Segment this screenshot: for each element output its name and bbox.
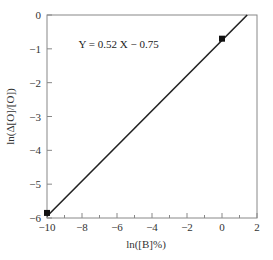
x-tick-label: −10	[38, 221, 56, 233]
y-tick-label: −5	[29, 178, 41, 190]
data-point-marker	[44, 210, 50, 216]
chart: −10−8−6−4−2020−1−2−3−4−5−6ln([B]%)ln(Δ[O…	[0, 0, 273, 260]
y-tick-label: −1	[29, 43, 41, 55]
x-axis-label: ln([B]%)	[126, 238, 166, 251]
x-tick-label: −2	[181, 221, 193, 233]
data-point-marker	[219, 36, 225, 42]
x-tick-label: −4	[146, 221, 158, 233]
y-tick-label: −2	[29, 77, 41, 89]
y-tick-label: −4	[29, 144, 41, 156]
x-tick-label: −6	[111, 221, 123, 233]
x-tick-label: 0	[219, 221, 225, 233]
x-tick-label: 2	[254, 221, 260, 233]
regression-equation: Y = 0.52 X − 0.75	[79, 38, 160, 50]
y-tick-label: −3	[29, 111, 41, 123]
x-tick-label: −8	[76, 221, 88, 233]
y-axis-label: ln(Δ[O]/[O])	[4, 88, 17, 145]
y-tick-label: 0	[36, 9, 42, 21]
y-tick-label: −6	[29, 212, 41, 224]
